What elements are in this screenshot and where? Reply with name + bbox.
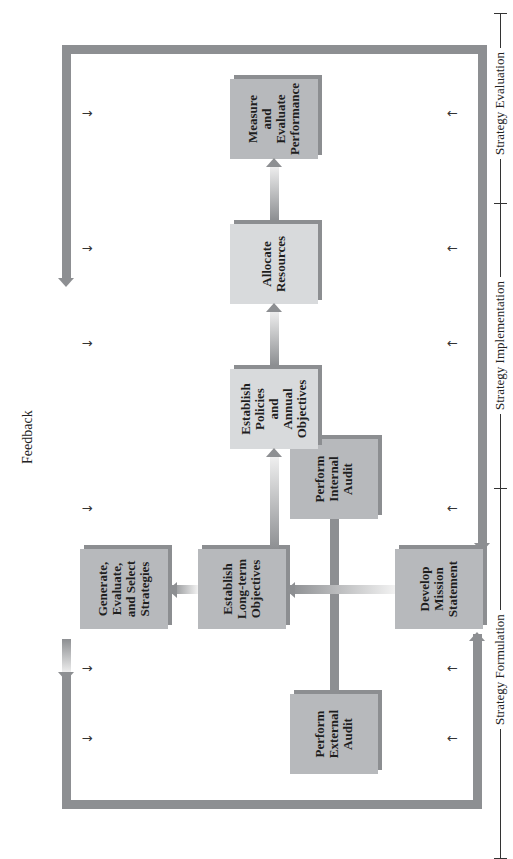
feedback-arrowhead-left: [469, 632, 485, 641]
feedback-loop-left: [62, 800, 482, 809]
strategic-management-model-diagram: Feedback Develop Mission Statement Perfo…: [0, 0, 513, 859]
small-arrow-icon: ↓: [80, 243, 95, 254]
box-internal-audit: Perform Internal Audit: [290, 439, 378, 519]
box-external-audit-label: Perform External Audit: [313, 706, 355, 762]
small-arrow-icon: ↓: [80, 663, 95, 674]
box-policies-objectives-label: Establish Policies and Annual Objectives: [239, 376, 309, 442]
feedback-arrowhead-top: [58, 672, 74, 681]
box-generate-strategies-label: Generate, Evaluate, and Select Strategie…: [96, 557, 152, 622]
phase-tick: [494, 203, 507, 204]
arrowhead-to-measure: [266, 158, 282, 167]
feedback-loop-bottom: [473, 634, 482, 809]
box-internal-audit-label: Perform Internal Audit: [313, 452, 355, 507]
feedback-loop-top: [62, 674, 71, 809]
phase-tick: [494, 13, 507, 14]
arrowhead-to-policies: [266, 448, 282, 457]
box-policies-objectives: Establish Policies and Annual Objectives: [230, 369, 318, 449]
small-arrow-icon: ↓: [80, 108, 95, 119]
small-arrow-icon: ↑: [445, 243, 460, 254]
box-develop-mission: Develop Mission Statement: [395, 549, 483, 629]
box-generate-strategies: Generate, Evaluate, and Select Strategie…: [80, 549, 168, 629]
arrowhead-to-strategies: [168, 582, 177, 598]
box-allocate-resources: Allocate Resources: [230, 224, 318, 304]
connector-policies-to-resources: [270, 309, 279, 365]
feedback-arrowhead-right: [58, 278, 74, 287]
small-arrow-icon: ↓: [80, 733, 95, 744]
connector-mission-to-objectives: [290, 585, 395, 594]
feedback-loop-top-fade: [62, 639, 71, 674]
box-measure-performance-label: Measure and Evaluate Performance: [246, 79, 302, 159]
small-arrow-icon: ↑: [445, 663, 460, 674]
feedback-label: Feedback: [20, 410, 36, 464]
box-long-term-objectives: Establish Long-term Objectives: [198, 549, 286, 629]
box-develop-mission-label: Develop Mission Statement: [418, 557, 460, 621]
small-arrow-icon: ↓: [80, 503, 95, 514]
arrowhead-to-objectives: [286, 582, 295, 598]
box-external-audit: Perform External Audit: [290, 694, 378, 774]
connector-audits: [330, 519, 339, 694]
connector-resources-to-measure: [270, 164, 279, 220]
box-long-term-objectives-label: Establish Long-term Objectives: [221, 555, 263, 623]
small-arrow-icon: ↑: [445, 108, 460, 119]
box-measure-performance: Measure and Evaluate Performance: [230, 79, 318, 159]
connector-strategies-to-policies: [270, 454, 279, 549]
small-arrow-icon: ↓: [80, 338, 95, 349]
phase-label-implementation: Strategy Implementation: [492, 277, 508, 414]
small-arrow-icon: ↑: [445, 503, 460, 514]
phase-label-evaluation: Strategy Evaluation: [492, 48, 508, 159]
phase-tick: [494, 488, 507, 489]
feedback-loop-right-segment: [62, 54, 71, 279]
phase-label-formulation: Strategy Formulation: [492, 610, 508, 729]
feedback-loop-bottom-right: [478, 45, 487, 544]
box-allocate-resources-label: Allocate Resources: [260, 232, 288, 296]
arrowhead-to-resources: [266, 303, 282, 312]
small-arrow-icon: ↑: [445, 338, 460, 349]
small-arrow-icon: ↑: [445, 733, 460, 744]
feedback-loop-top-right: [62, 45, 487, 54]
